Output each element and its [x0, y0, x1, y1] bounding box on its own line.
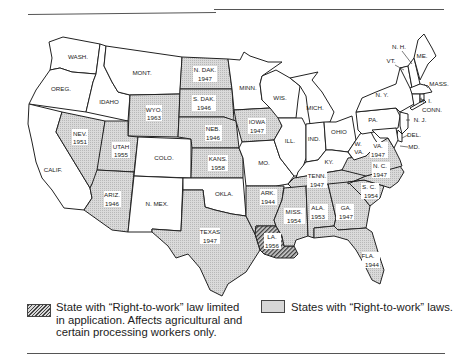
label-oreg: OREG.: [51, 85, 71, 92]
label-tenn-year: 1947: [310, 181, 324, 188]
label-ndak: N. DAK.: [194, 66, 217, 73]
label-fla: FLA.: [361, 252, 374, 259]
label-okla: OKLA.: [215, 190, 234, 197]
label-conn: CONN.: [422, 106, 442, 113]
legend-rtw: States with “Right-to-work” laws.: [291, 301, 453, 314]
label-colo: COLO.: [154, 154, 174, 161]
label-mont: MONT.: [132, 69, 152, 76]
label-pa: PA.: [368, 116, 378, 123]
legend-rtw-label: States with “Right-to-work” laws.: [291, 301, 453, 314]
label-nh: N. H.: [392, 43, 406, 50]
label-nev-year: 1951: [73, 138, 87, 145]
label-ala: ALA.: [311, 204, 325, 211]
label-mass: MASS.: [429, 80, 449, 87]
label-kans: KANS.: [209, 155, 228, 162]
legend-swatch-limited: [27, 304, 51, 317]
label-ark: ARK.: [261, 189, 276, 196]
label-ny: N. Y.: [376, 91, 389, 98]
label-fla-year: 1944: [365, 261, 379, 268]
label-mich: MICH.: [306, 104, 324, 111]
label-sdak: S. DAK.: [193, 95, 215, 102]
label-nmex: N. MEX.: [145, 200, 168, 207]
label-ndak-year: 1947: [198, 75, 212, 82]
label-nj: N. J.: [414, 116, 427, 123]
label-ill: ILL.: [285, 137, 296, 144]
label-kans-year: 1958: [211, 164, 225, 171]
label-ariz: ARIZ.: [104, 191, 120, 198]
label-neb-year: 1946: [206, 134, 220, 141]
label-va: VA.: [373, 142, 383, 149]
label-ky: KY.: [324, 158, 333, 165]
label-iowa: IOWA: [249, 118, 266, 125]
legend-swatch-rtw: [261, 300, 285, 313]
label-miss: MISS.: [286, 208, 303, 215]
label-ga-year: 1947: [339, 213, 353, 220]
label-wyo-year: 1963: [147, 114, 161, 121]
label-ri: R. I.: [420, 97, 432, 104]
label-texas: TEXAS: [200, 228, 220, 235]
label-ga: GA.: [341, 204, 352, 211]
label-tenn: TENN.: [308, 172, 327, 179]
label-vt: VT.: [387, 57, 396, 64]
label-texas-year: 1947: [203, 237, 217, 244]
legend-limited-line1: State with “Right-to-work” law limited: [56, 301, 246, 314]
label-del: DEL.: [407, 131, 421, 138]
label-va-year: 1947: [371, 151, 385, 158]
label-nev: NEV.: [73, 130, 87, 137]
label-minn: MINN.: [239, 84, 257, 91]
label-mo: MO.: [258, 159, 270, 166]
label-nc: N. C.: [373, 162, 387, 169]
label-wva-1: W.: [354, 140, 361, 147]
legend-limited: State with “Right-to-work” law limited i…: [56, 301, 246, 339]
label-iowa-year: 1947: [250, 127, 264, 134]
label-wis: WIS.: [273, 94, 287, 101]
label-ala-year: 1953: [311, 213, 325, 220]
label-ark-year: 1944: [261, 198, 275, 205]
label-ariz-year: 1946: [105, 200, 119, 207]
label-sc-year: 1954: [364, 192, 378, 199]
label-sc: S. C.: [362, 183, 376, 190]
bottom-rule: [27, 353, 445, 354]
label-wyo: WYO.: [146, 106, 163, 113]
label-sdak-year: 1946: [197, 104, 211, 111]
label-miss-year: 1954: [287, 217, 301, 224]
label-calif: CALIF.: [44, 166, 63, 173]
legend-limited-line2: in application. Affects agricultural and: [56, 314, 246, 327]
label-me: ME.: [416, 52, 427, 59]
label-wva-2: VA.: [354, 148, 364, 155]
label-la-year: 1956: [265, 242, 279, 249]
label-utah: UTAH: [113, 143, 129, 150]
label-utah-year: 1955: [114, 151, 128, 158]
legend-limited-line3: certain processing workers only.: [56, 326, 246, 339]
label-nc-year: 1947: [373, 171, 387, 178]
label-ohio: OHIO: [331, 128, 347, 135]
label-md: MD.: [408, 143, 420, 150]
label-neb: NEB.: [206, 125, 221, 132]
label-la: LA.: [267, 233, 277, 240]
label-wash: WASH.: [68, 53, 88, 60]
label-idaho: IDAHO: [99, 98, 119, 105]
label-ind: IND.: [308, 135, 321, 142]
